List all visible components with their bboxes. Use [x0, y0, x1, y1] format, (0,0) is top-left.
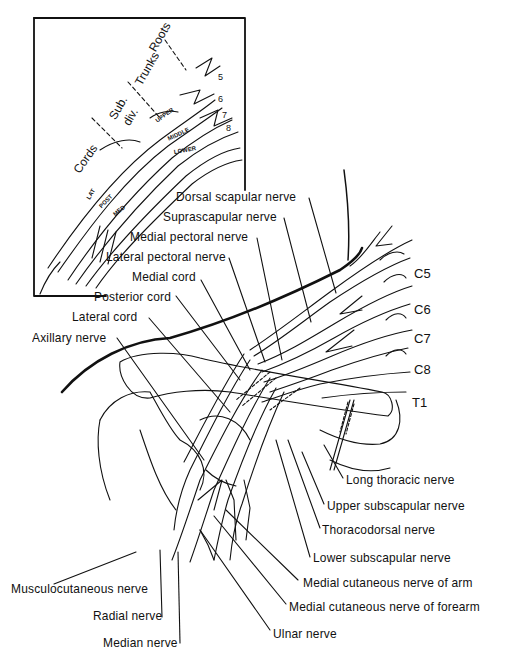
label-medial-cutaneous-nerve-of-arm: Medial cutaneous nerve of arm [303, 576, 473, 590]
label-median-nerve: Median nerve [103, 636, 178, 650]
label-medial-pectoral-nerve: Medial pectoral nerve [130, 230, 248, 244]
label-ulnar-nerve: Ulnar nerve [273, 627, 337, 641]
label-dorsal-scapular-nerve: Dorsal scapular nerve [176, 190, 296, 204]
root-label-c8: C8 [414, 362, 431, 377]
label-musculocutaneous-nerve: Musculocutaneous nerve [11, 582, 148, 596]
root-label-c5: C5 [414, 266, 431, 281]
label-thoracodorsal-nerve: Thoracodorsal nerve [322, 523, 435, 537]
label-radial-nerve: Radial nerve [93, 609, 162, 623]
label-suprascapular-nerve: Suprascapular nerve [163, 210, 277, 224]
label-upper-subscapular-nerve: Upper subscapular nerve [327, 499, 465, 513]
label-axillary-nerve: Axillary nerve [32, 331, 106, 345]
root-label-c6: C6 [414, 302, 431, 317]
label-lateral-pectoral-nerve: Lateral pectoral nerve [106, 250, 226, 264]
inset-root-7: 7 [222, 110, 227, 120]
label-long-thoracic-nerve: Long thoracic nerve [346, 473, 455, 487]
label-medial-cord: Medial cord [132, 270, 196, 284]
label-posterior-cord: Posterior cord [94, 290, 171, 304]
inset-root-8: 8 [226, 123, 231, 133]
root-label-c7: C7 [414, 331, 431, 346]
root-label-t1: T1 [412, 395, 427, 410]
brachial-plexus-figure: Roots Trunks Sub. div. Cords UPPER MIDDL… [0, 0, 510, 662]
label-medial-cutaneous-nerve-of-forearm: Medial cutaneous nerve of forearm [289, 600, 480, 614]
label-lateral-cord: Lateral cord [72, 310, 137, 324]
inset-root-6: 6 [218, 94, 223, 104]
inset-root-5: 5 [218, 72, 223, 82]
label-lower-subscapular-nerve: Lower subscapular nerve [313, 551, 451, 565]
